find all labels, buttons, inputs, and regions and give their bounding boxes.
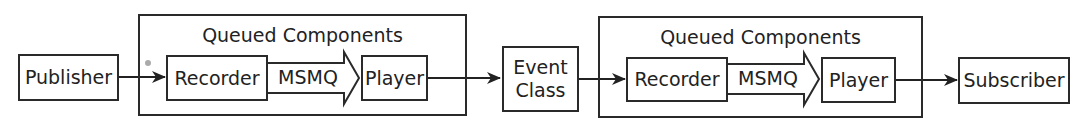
subscriber-node: Subscriber (958, 57, 1070, 104)
event-class-label-line2: Class (516, 79, 566, 102)
msmq-label-1: MSMQ (268, 66, 348, 88)
recorder-node-1: Recorder (166, 55, 268, 101)
recorder-label-2: Recorder (634, 68, 719, 91)
group-title-2: Queued Components (600, 26, 921, 48)
subscriber-label: Subscriber (963, 69, 1064, 92)
msmq-label-2: MSMQ (728, 67, 808, 89)
event-class-node: Event Class (502, 46, 579, 112)
recorder-node-2: Recorder (626, 57, 728, 102)
player-label-2: Player (829, 69, 888, 92)
player-node-1: Player (361, 55, 428, 101)
publisher-label: Publisher (25, 66, 112, 89)
recorder-label-1: Recorder (174, 67, 259, 90)
player-label-1: Player (365, 67, 424, 90)
publisher-node: Publisher (18, 54, 119, 101)
event-class-label-line1: Event (513, 56, 567, 79)
player-node-2: Player (821, 57, 896, 103)
group-title-1: Queued Components (140, 24, 465, 46)
